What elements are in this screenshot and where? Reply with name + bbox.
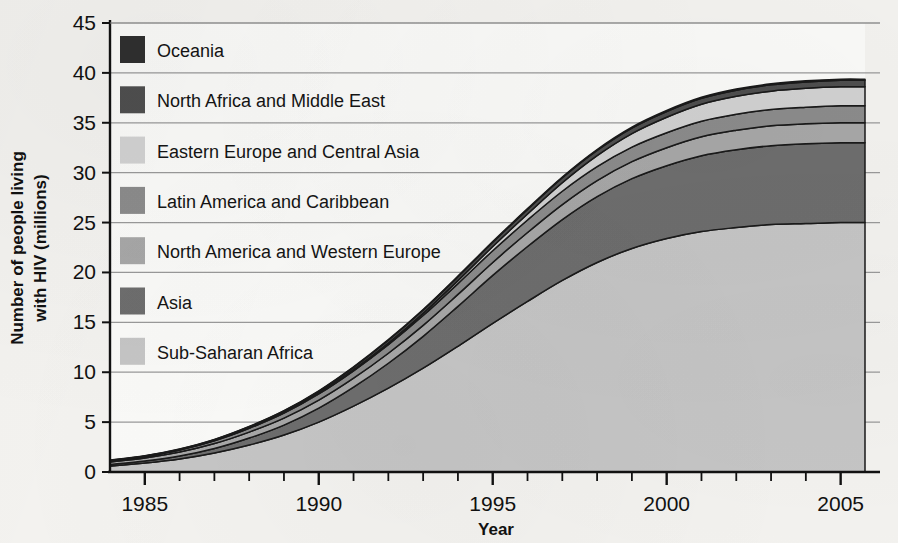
x-tick-label: 2000 bbox=[643, 492, 690, 515]
legend-swatch bbox=[120, 187, 145, 214]
y-tick-label: 45 bbox=[73, 11, 96, 34]
y-tick-label: 20 bbox=[73, 260, 96, 283]
y-tick-label: 10 bbox=[73, 360, 96, 383]
y-tick-label: 40 bbox=[73, 61, 96, 84]
y-axis-title-line2: with HIV (millions) bbox=[31, 174, 50, 322]
legend-label: Sub-Saharan Africa bbox=[157, 343, 314, 363]
legend-label: Asia bbox=[157, 293, 193, 313]
y-axis-title-line1: Number of people living bbox=[8, 151, 27, 345]
x-tick-label: 1990 bbox=[295, 492, 342, 515]
y-tick-label: 5 bbox=[84, 410, 96, 433]
legend-item: North Africa and Middle East bbox=[120, 86, 385, 113]
legend-item: Asia bbox=[120, 288, 193, 315]
x-tick-label: 1985 bbox=[121, 492, 168, 515]
y-tick-label: 30 bbox=[73, 161, 96, 184]
y-tick-label: 15 bbox=[73, 310, 96, 333]
legend-swatch bbox=[120, 86, 145, 113]
legend-swatch bbox=[120, 137, 145, 164]
x-tick-label: 2005 bbox=[817, 492, 864, 515]
legend-item: North America and Western Europe bbox=[120, 237, 441, 264]
legend-label: North America and Western Europe bbox=[157, 242, 441, 262]
y-axis-ticks: 454035302520151050 bbox=[73, 11, 110, 483]
legend-item: Eastern Europe and Central Asia bbox=[120, 137, 420, 164]
y-tick-label: 0 bbox=[84, 460, 96, 483]
x-axis-title: Year bbox=[478, 520, 514, 539]
legend-label: Latin America and Caribbean bbox=[157, 192, 389, 212]
legend-swatch bbox=[120, 237, 145, 264]
stacked-area-chart: 454035302520151050 19851990199520002005 … bbox=[0, 0, 898, 543]
y-tick-label: 25 bbox=[73, 211, 96, 234]
y-tick-label: 35 bbox=[73, 111, 96, 134]
legend-label: Oceania bbox=[157, 41, 225, 61]
legend-item: Oceania bbox=[120, 36, 225, 63]
legend-swatch bbox=[120, 338, 145, 365]
x-axis-ticks: 19851990199520002005 bbox=[121, 472, 864, 515]
legend-label: Eastern Europe and Central Asia bbox=[157, 142, 420, 162]
legend-swatch bbox=[120, 288, 145, 315]
y-axis-title: Number of people living with HIV (millio… bbox=[8, 151, 50, 345]
chart-figure: 454035302520151050 19851990199520002005 … bbox=[0, 0, 898, 543]
legend-swatch bbox=[120, 36, 145, 63]
legend-label: North Africa and Middle East bbox=[157, 91, 385, 111]
legend-item: Latin America and Caribbean bbox=[120, 187, 389, 214]
x-tick-label: 1995 bbox=[469, 492, 516, 515]
